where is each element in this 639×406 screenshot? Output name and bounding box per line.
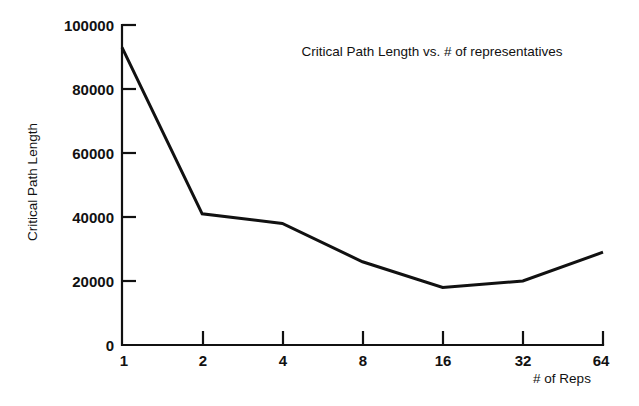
- y-axis-title: Critical Path Length: [25, 123, 40, 241]
- x-tick-label-64: 64: [593, 352, 610, 369]
- x-axis-tick-labels: 1 2 4 8 16 32 64: [120, 352, 610, 369]
- chart-title: Critical Path Length vs. # of representa…: [301, 44, 562, 59]
- data-series-line: [122, 47, 603, 287]
- y-axis-tick-labels: 100000 80000 60000 40000 20000 0: [64, 17, 114, 354]
- axis-spines: [122, 25, 603, 345]
- x-tick-label-16: 16: [435, 352, 452, 369]
- y-tick-label-100000: 100000: [64, 17, 114, 34]
- x-tick-label-2: 2: [199, 352, 207, 369]
- chart-canvas: Critical Path Length vs. # of representa…: [0, 0, 639, 406]
- y-tick-label-60000: 60000: [72, 145, 114, 162]
- y-tick-label-40000: 40000: [72, 209, 114, 226]
- x-tick-label-8: 8: [359, 352, 367, 369]
- y-tick-label-20000: 20000: [72, 273, 114, 290]
- x-tick-label-32: 32: [515, 352, 532, 369]
- x-tick-label-4: 4: [279, 352, 288, 369]
- x-tick-label-1: 1: [120, 352, 128, 369]
- chart-figure: Critical Path Length vs. # of representa…: [0, 0, 639, 406]
- x-axis-ticks: [203, 331, 603, 345]
- y-tick-label-0: 0: [106, 337, 114, 354]
- y-tick-label-80000: 80000: [72, 81, 114, 98]
- x-axis-title: # of Reps: [533, 371, 591, 386]
